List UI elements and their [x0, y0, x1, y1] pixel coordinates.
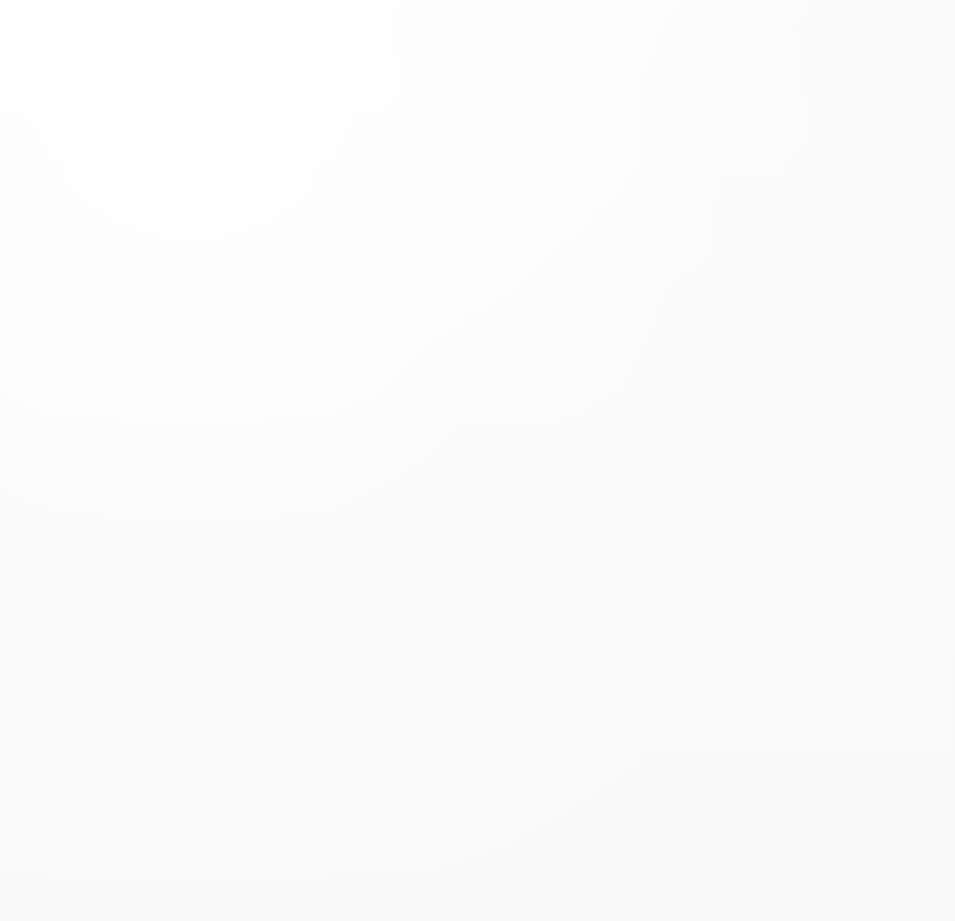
line-drawing-svg — [0, 0, 955, 921]
dashed-line-layer — [30, 28, 925, 893]
solid-line-layer — [303, 288, 750, 634]
drawing-canvas — [0, 0, 955, 921]
